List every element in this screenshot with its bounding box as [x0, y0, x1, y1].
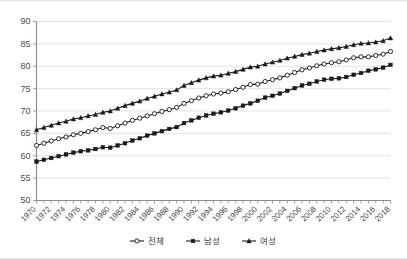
y-tick-label: 50 — [20, 195, 30, 205]
series-female — [34, 36, 392, 132]
data-point-marker — [42, 141, 46, 145]
data-point-marker — [263, 79, 267, 83]
data-point-marker — [322, 62, 326, 66]
y-tick-label: 85 — [20, 39, 30, 49]
data-point-marker — [389, 63, 393, 67]
data-point-marker — [35, 160, 39, 164]
data-point-marker — [160, 129, 164, 133]
x-tick-label: 1982 — [107, 204, 126, 223]
data-point-marker — [182, 121, 186, 125]
data-point-marker — [175, 105, 179, 109]
series-total — [34, 49, 392, 147]
data-point-marker — [256, 82, 260, 86]
data-point-marker — [359, 71, 363, 75]
y-tick-label: 70 — [20, 106, 30, 116]
data-point-marker — [388, 36, 392, 40]
data-point-marker — [308, 82, 312, 86]
data-point-marker — [138, 116, 142, 120]
data-point-marker — [101, 125, 105, 129]
x-tick-label: 2010 — [314, 204, 333, 223]
data-point-marker — [153, 132, 157, 136]
data-point-marker — [367, 69, 371, 73]
data-point-marker — [131, 139, 135, 143]
data-point-marker — [204, 114, 208, 118]
data-point-marker — [293, 86, 297, 90]
data-point-marker — [344, 58, 348, 62]
data-point-marker — [135, 239, 139, 243]
x-tick-label: 2014 — [343, 204, 362, 223]
data-point-marker — [263, 96, 267, 100]
data-point-marker — [71, 133, 75, 137]
data-point-marker — [167, 108, 171, 112]
data-point-marker — [116, 124, 120, 128]
data-point-marker — [285, 73, 289, 77]
data-point-marker — [130, 118, 134, 122]
data-point-marker — [374, 53, 378, 57]
data-point-marker — [116, 144, 120, 148]
data-point-marker — [352, 73, 356, 77]
x-tick-label: 2012 — [329, 204, 348, 223]
data-point-marker — [49, 139, 53, 143]
data-point-marker — [64, 153, 68, 157]
data-point-marker — [256, 99, 260, 103]
chart-canvas: 5055606570758085901970197219741976197819… — [0, 1, 407, 259]
data-point-marker — [248, 82, 252, 86]
x-tick-label: 1978 — [78, 204, 97, 223]
data-point-marker — [204, 94, 208, 98]
data-point-marker — [285, 89, 289, 93]
data-point-marker — [152, 112, 156, 116]
data-point-marker — [49, 156, 53, 160]
data-point-marker — [123, 121, 127, 125]
data-point-marker — [108, 126, 112, 130]
data-point-marker — [241, 104, 245, 108]
legend-item-female[interactable]: 여성 — [242, 236, 276, 246]
data-point-marker — [42, 158, 46, 162]
x-tick-label: 1970 — [19, 204, 38, 223]
x-tick-label: 1972 — [34, 204, 53, 223]
x-tick-label: 1994 — [196, 204, 215, 223]
data-point-marker — [123, 141, 127, 145]
data-point-marker — [145, 134, 149, 138]
legend-item-male[interactable]: 남성 — [186, 236, 220, 246]
data-point-marker — [337, 60, 341, 64]
data-point-marker — [167, 127, 171, 131]
x-tick-label: 1992 — [181, 204, 200, 223]
data-point-marker — [219, 111, 223, 115]
data-point-marker — [300, 68, 304, 72]
data-point-marker — [234, 107, 238, 111]
legend-label: 여성 — [260, 236, 276, 246]
x-tick-label: 1988 — [152, 204, 171, 223]
data-point-marker — [175, 125, 179, 129]
data-point-marker — [108, 146, 112, 150]
data-point-marker — [300, 84, 304, 88]
data-point-marker — [219, 91, 223, 95]
data-point-marker — [241, 85, 245, 89]
data-point-marker — [72, 151, 76, 155]
gridlines — [37, 22, 391, 179]
data-point-marker — [381, 66, 385, 70]
data-point-marker — [322, 78, 326, 82]
x-tick-label: 1996 — [211, 204, 230, 223]
x-tick-label: 2002 — [255, 204, 274, 223]
x-tick-label: 2008 — [299, 204, 318, 223]
x-tick-label: 2016 — [358, 204, 377, 223]
x-tick-label: 1984 — [122, 204, 141, 223]
x-tick-label: 1976 — [63, 204, 82, 223]
y-tick-label: 55 — [20, 173, 30, 183]
x-tick-label: 2000 — [240, 204, 259, 223]
legend-item-total[interactable]: 전체 — [130, 236, 164, 246]
data-point-marker — [86, 129, 90, 133]
legend-label: 전체 — [148, 236, 164, 246]
data-point-marker — [226, 90, 230, 94]
y-tick-label: 90 — [20, 16, 30, 26]
y-tick-label: 65 — [20, 128, 30, 138]
data-point-marker — [197, 116, 201, 120]
x-tick-label: 1990 — [166, 204, 185, 223]
data-point-marker — [191, 239, 195, 243]
data-point-marker — [138, 136, 142, 140]
data-point-marker — [197, 96, 201, 100]
data-point-marker — [366, 55, 370, 59]
y-tick-label: 75 — [20, 84, 30, 94]
data-point-marker — [307, 66, 311, 70]
x-tick-label: 1998 — [225, 204, 244, 223]
